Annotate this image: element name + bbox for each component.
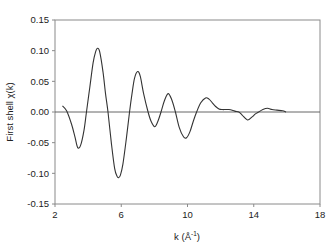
x-tick-label: 6 (119, 209, 124, 220)
y-tick-label: -0.10 (27, 168, 49, 179)
y-tick-label: -0.05 (27, 137, 49, 148)
x-tick-label: 10 (182, 209, 193, 220)
x-axis-ticks: 26101418 (52, 204, 325, 220)
x-tick-label: 2 (52, 209, 57, 220)
data-series (62, 48, 286, 178)
y-axis-ticks: 0.150.100.050.00-0.05-0.10-0.15 (27, 14, 55, 209)
chi-k-chart: 0.150.100.050.00-0.05-0.10-0.15 26101418… (0, 0, 336, 252)
x-tick-label: 14 (248, 209, 259, 220)
y-tick-label: 0.15 (31, 14, 50, 25)
y-tick-label: -0.15 (27, 198, 49, 209)
y-tick-label: 0.05 (31, 76, 50, 87)
chi-k-curve (62, 48, 286, 178)
x-tick-label: 18 (315, 209, 326, 220)
y-axis-label: First shell χ(k) (4, 82, 15, 141)
x-axis-label: k (Å-1) (174, 230, 200, 242)
y-tick-label: 0.00 (31, 106, 50, 117)
y-tick-label: 0.10 (31, 45, 50, 56)
